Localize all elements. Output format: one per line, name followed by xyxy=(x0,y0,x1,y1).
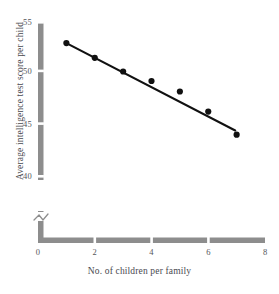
trend-line xyxy=(66,43,235,130)
scatter-plot-figure: 55 50 45 40 0 2 4 6 8 No. of children pe… xyxy=(0,0,279,294)
axis-break-icon xyxy=(34,212,48,221)
data-point xyxy=(92,55,98,61)
x-axis xyxy=(38,237,265,243)
data-point xyxy=(63,40,69,46)
x-tick-label-4: 4 xyxy=(144,247,160,257)
x-tick-label-6: 6 xyxy=(200,247,216,257)
x-tick-label-2: 2 xyxy=(87,247,103,257)
y-axis xyxy=(38,21,44,241)
data-point xyxy=(120,68,126,74)
y-axis-title: Average intelligence test score per chil… xyxy=(15,6,25,196)
data-point xyxy=(234,132,240,138)
x-tick-label-8: 8 xyxy=(257,247,273,257)
x-axis-title: No. of children per family xyxy=(0,266,279,276)
data-point xyxy=(177,88,183,94)
data-point xyxy=(148,78,154,84)
data-point xyxy=(205,108,211,114)
x-tick-label-0: 0 xyxy=(30,247,46,257)
